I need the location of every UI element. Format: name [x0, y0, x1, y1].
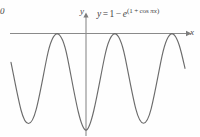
function-curve [11, 34, 185, 131]
equation-minus: − [114, 9, 122, 19]
y-axis [83, 13, 88, 137]
y-axis-label: y [80, 7, 84, 16]
exponent-cos: cos [140, 7, 149, 15]
equation-equals: = [101, 9, 109, 19]
exponent-one: 1 [129, 7, 133, 15]
plot-canvas [0, 0, 200, 136]
exponent-plus: + [134, 7, 138, 15]
equation-label: y=1−e(1 + cos πx) [97, 10, 159, 20]
x-axis [10, 31, 192, 36]
y-axis-arrow-icon [83, 13, 88, 18]
x-axis-label: x [190, 28, 194, 37]
exponent-close-paren: ) [157, 7, 159, 15]
equation-exponent: (1 + cos πx) [127, 7, 159, 15]
graph-figure: y x 0 y=1−e(1 + cos πx) [0, 0, 200, 136]
